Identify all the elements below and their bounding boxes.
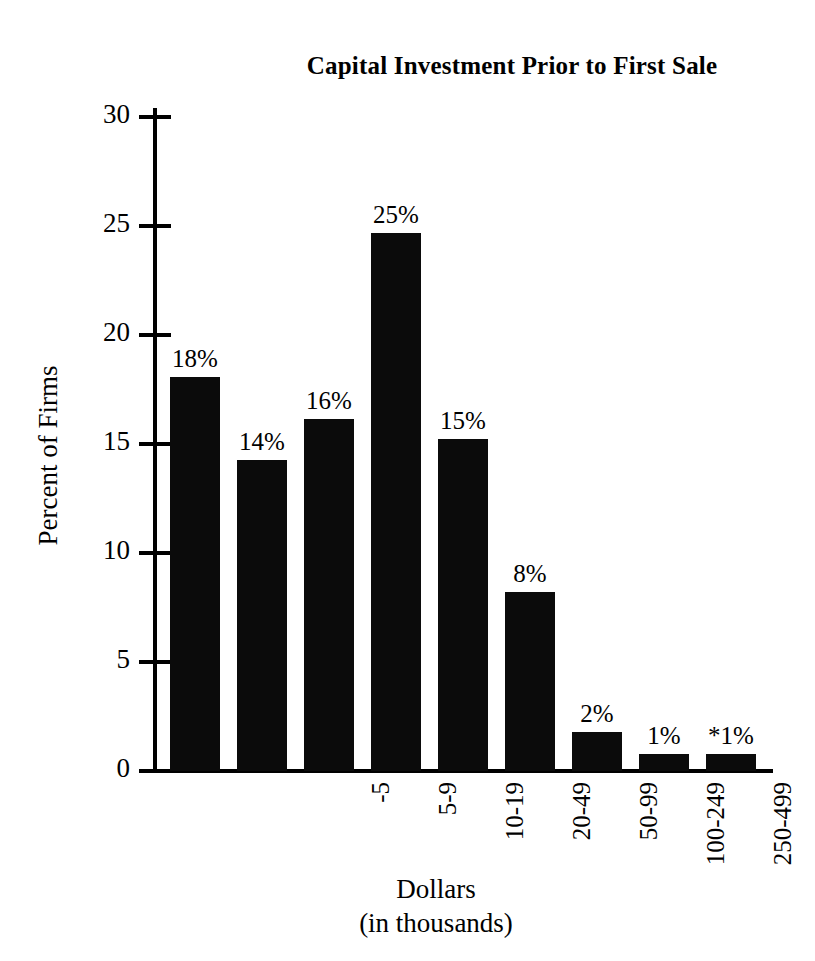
- bar-3: [371, 233, 421, 771]
- y-tick-25: 25: [0, 224, 171, 228]
- y-tick-0: 0: [0, 769, 171, 773]
- y-tick-mark: [139, 224, 171, 228]
- bar-0: [170, 377, 220, 771]
- y-tick-label: 5: [78, 646, 130, 673]
- y-axis-line: [153, 108, 157, 773]
- y-tick-mark: [139, 660, 171, 664]
- x-axis-title-line-2: (in thousands): [286, 906, 586, 940]
- x-tick-label-4: 50-99: [636, 782, 663, 942]
- x-tick-label-6: 250-499: [770, 782, 797, 942]
- y-tick-mark: [139, 551, 171, 555]
- y-tick-mark: [139, 769, 171, 773]
- x-tick-label-5: 100-249: [703, 782, 730, 942]
- y-tick-5: 5: [0, 660, 171, 664]
- bar-value-2: 16%: [284, 388, 374, 413]
- bar-value-0: 18%: [150, 346, 240, 371]
- bar-7: [639, 754, 689, 771]
- y-tick-label: 25: [78, 210, 130, 237]
- y-tick-10: 10: [0, 551, 171, 555]
- x-axis-title: Dollars (in thousands): [286, 872, 586, 940]
- y-tick-20: 20: [0, 333, 171, 337]
- bar-value-8: *1%: [686, 723, 776, 748]
- y-axis-title: Percent of Firms: [33, 306, 64, 606]
- y-tick-mark: [139, 333, 171, 337]
- bar-value-3: 25%: [351, 202, 441, 227]
- y-tick-label: 15: [78, 428, 130, 455]
- y-tick-mark: [139, 115, 171, 119]
- chart-title: Capital Investment Prior to First Sale: [222, 52, 802, 80]
- y-tick-label: 10: [78, 537, 130, 564]
- bar-chart: Capital Investment Prior to First Sale P…: [0, 0, 815, 961]
- y-tick-mark: [139, 442, 171, 446]
- bar-5: [505, 592, 555, 771]
- y-tick-30: 30: [0, 115, 171, 119]
- bar-value-4: 15%: [418, 408, 508, 433]
- bar-2: [304, 419, 354, 771]
- y-tick-label: 20: [78, 319, 130, 346]
- y-tick-15: 15: [0, 442, 171, 446]
- bar-1: [237, 460, 287, 771]
- x-axis-title-line-1: Dollars: [286, 872, 586, 906]
- y-tick-label: 30: [78, 101, 130, 128]
- bar-value-5: 8%: [485, 561, 575, 586]
- bar-value-1: 14%: [217, 429, 307, 454]
- y-tick-label: 0: [78, 755, 130, 782]
- bar-8: [706, 754, 756, 771]
- bar-6: [572, 732, 622, 771]
- bar-4: [438, 439, 488, 771]
